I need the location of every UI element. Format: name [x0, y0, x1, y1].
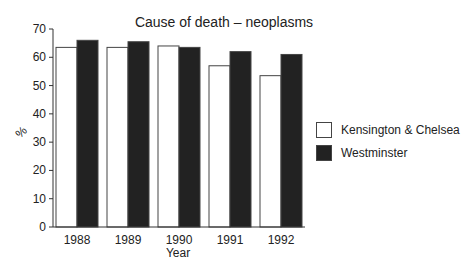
chart-title: Cause of death – neoplasms — [135, 14, 313, 30]
legend-swatch-black — [316, 145, 332, 161]
legend: Kensington & Chelsea Westminster — [316, 120, 460, 166]
x-tick-label: 1989 — [115, 233, 142, 247]
x-axis: 19881989199019911992 — [53, 227, 305, 247]
bar-kensington-1990 — [158, 46, 179, 227]
legend-item-kensington: Kensington & Chelsea — [316, 120, 460, 140]
x-tick-label: 1988 — [64, 233, 91, 247]
y-tick-label: 70 — [33, 22, 47, 36]
y-tick-label: 30 — [33, 135, 47, 149]
y-axis: 010203040506070 — [33, 22, 53, 234]
bar-kensington-1992 — [260, 76, 281, 227]
y-tick-label: 10 — [33, 192, 47, 206]
bar-kensington-1989 — [107, 47, 128, 227]
y-tick-label: 40 — [33, 107, 47, 121]
bars — [56, 40, 302, 227]
legend-label: Westminster — [341, 146, 407, 160]
bar-westminster-1989 — [128, 42, 149, 227]
legend-item-westminster: Westminster — [316, 143, 460, 163]
bar-kensington-1991 — [209, 66, 230, 227]
bar-kensington-1988 — [56, 47, 77, 227]
x-axis-label: Year — [166, 246, 190, 260]
y-tick-label: 0 — [39, 220, 46, 234]
bar-westminster-1990 — [179, 47, 200, 227]
y-axis-label: % — [12, 123, 30, 141]
bar-westminster-1992 — [281, 54, 302, 227]
bar-westminster-1991 — [230, 52, 251, 227]
x-tick-label: 1992 — [268, 233, 295, 247]
y-tick-label: 60 — [33, 50, 47, 64]
legend-swatch-white — [316, 122, 332, 138]
legend-label: Kensington & Chelsea — [341, 123, 460, 137]
y-tick-label: 20 — [33, 163, 47, 177]
x-tick-label: 1991 — [217, 233, 244, 247]
x-tick-label: 1990 — [166, 233, 193, 247]
y-tick-label: 50 — [33, 79, 47, 93]
bar-westminster-1988 — [77, 40, 98, 227]
